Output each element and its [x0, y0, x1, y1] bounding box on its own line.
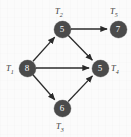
label-subscript: 4 — [116, 69, 119, 75]
graph-node-t5: 7 — [110, 21, 127, 38]
label-subscript: 3 — [61, 127, 64, 133]
label-subscript: 5 — [115, 12, 118, 18]
node-label-t1: T1 — [6, 64, 14, 75]
graph-node-t3: 6 — [54, 100, 71, 117]
node-value: 5 — [60, 25, 65, 34]
graph-node-t2: 5 — [54, 21, 71, 38]
graph-node-t4: 5 — [92, 60, 109, 77]
node-label-t5: T5 — [110, 7, 118, 18]
node-value: 8 — [25, 64, 30, 73]
label-subscript: 2 — [60, 12, 63, 18]
node-label-t3: T3 — [56, 122, 64, 133]
edge-t2-to-t4 — [68, 35, 92, 60]
node-label-t2: T2 — [55, 7, 63, 18]
node-value: 7 — [116, 25, 121, 34]
node-value: 5 — [98, 64, 103, 73]
node-value: 6 — [60, 104, 65, 113]
graph-node-t1: 8 — [19, 60, 36, 77]
edge-t3-to-t4 — [68, 76, 92, 102]
graph-diagram: 8T15T26T35T47T5 — [0, 0, 131, 137]
edge-t1-to-t2 — [33, 37, 55, 61]
edge-t1-to-t3 — [33, 75, 55, 100]
label-subscript: 1 — [11, 69, 14, 75]
node-label-t4: T4 — [111, 64, 119, 75]
